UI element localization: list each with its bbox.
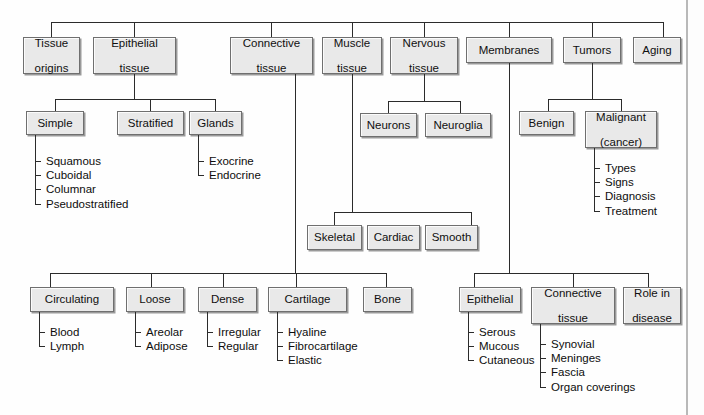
node-muscle-tissue-label: Muscle tissue [330, 37, 374, 74]
root-drop-aging [663, 22, 664, 37]
node-skeletal-label: Skeletal [310, 231, 359, 243]
leaf-item: Meninges [540, 351, 635, 365]
node-epithelial-tissue[interactable]: Epithelial tissue [93, 37, 176, 74]
node-connective-tissue-label: Connective tissue [239, 37, 305, 74]
node-cartilage-label: Cartilage [280, 293, 334, 305]
muscle-bus [334, 212, 471, 213]
node-bone-label: Bone [370, 293, 405, 305]
leaf-item: Squamous [35, 154, 128, 168]
tumors-drop-malignant [621, 99, 622, 111]
node-smooth[interactable]: Smooth [425, 225, 478, 250]
node-tumors[interactable]: Tumors [563, 37, 621, 63]
membranes-bus [474, 273, 648, 274]
connective-drop-dense [223, 273, 224, 287]
leaf-list-membrane-epithelial: Serous Mucous Cutaneous [468, 325, 535, 368]
leaf-connector-cartilage [277, 312, 278, 325]
node-dense-label: Dense [207, 293, 248, 305]
membranes-trunk [509, 63, 510, 273]
node-stratified[interactable]: Stratified [117, 111, 184, 135]
leaf-item: Areolar [135, 325, 188, 339]
node-neurons-label: Neurons [363, 119, 414, 131]
node-tissue-origins[interactable]: Tissue origins [23, 37, 80, 74]
node-connective-tissue[interactable]: Connective tissue [230, 37, 313, 74]
node-stratified-label: Stratified [124, 117, 177, 129]
leaf-item: Serous [468, 325, 535, 339]
leaf-connector-loose [135, 312, 136, 325]
node-malignant-cancer-label: Malignant (cancer) [592, 111, 650, 148]
tumors-bus [548, 99, 621, 100]
leaf-item: Types [594, 161, 657, 175]
node-neurons[interactable]: Neurons [360, 113, 417, 137]
connective-drop-bone [386, 273, 387, 287]
leaf-connector-dense [207, 312, 208, 325]
root-drop-nervous [424, 22, 425, 37]
leaf-item: Diagnosis [594, 189, 657, 203]
node-benign-label: Benign [525, 117, 569, 129]
node-circulating-label: Circulating [41, 293, 103, 305]
root-drop-epithelial [134, 22, 135, 37]
leaf-item: Signs [594, 175, 657, 189]
leaf-connector-membrane-connective [540, 324, 541, 337]
root-drop-connective [271, 22, 272, 37]
node-membrane-epithelial-label: Epithelial [463, 293, 518, 305]
epithelial-trunk [134, 74, 135, 99]
node-tumors-label: Tumors [569, 44, 616, 56]
node-tissue-origins-label: Tissue origins [31, 37, 73, 74]
node-membranes[interactable]: Membranes [466, 37, 552, 63]
node-muscle-tissue[interactable]: Muscle tissue [322, 37, 382, 74]
node-cartilage[interactable]: Cartilage [268, 287, 347, 312]
epithelial-drop-simple [55, 99, 56, 111]
leaf-item: Pseudostratified [35, 197, 128, 211]
node-loose-label: Loose [135, 293, 174, 305]
node-cardiac-label: Cardiac [370, 231, 418, 243]
node-cardiac[interactable]: Cardiac [367, 225, 420, 250]
node-membrane-epithelial[interactable]: Epithelial [459, 287, 521, 312]
membranes-drop-role [648, 273, 649, 287]
epithelial-bus [55, 99, 215, 100]
leaf-item: Adipose [135, 339, 188, 353]
connective-drop-loose [151, 273, 152, 287]
leaf-item: Irregular [207, 325, 261, 339]
leaf-item: Treatment [594, 204, 657, 218]
node-neuroglia[interactable]: Neuroglia [425, 113, 491, 137]
nervous-drop-neuroglia [460, 101, 461, 113]
muscle-drop-smooth [471, 212, 472, 225]
node-nervous-tissue[interactable]: Nervous tissue [390, 37, 458, 74]
node-circulating[interactable]: Circulating [30, 287, 114, 312]
node-loose[interactable]: Loose [126, 287, 184, 312]
leaf-item: Elastic [277, 353, 358, 367]
node-aging[interactable]: Aging [633, 37, 681, 63]
node-membrane-connective-tissue[interactable]: Connective tissue [531, 287, 615, 324]
leaf-item: Regular [207, 339, 261, 353]
node-glands[interactable]: Glands [189, 111, 242, 135]
nervous-bus [388, 101, 460, 102]
node-aging-label: Aging [638, 44, 675, 56]
node-simple[interactable]: Simple [26, 111, 84, 135]
node-benign[interactable]: Benign [519, 111, 574, 135]
leaf-item: Exocrine [198, 154, 261, 168]
root-drop-tumors [592, 22, 593, 37]
muscle-drop-skeletal [334, 212, 335, 225]
leaf-item: Hyaline [277, 325, 358, 339]
epithelial-drop-stratified [150, 99, 151, 111]
node-malignant-cancer[interactable]: Malignant (cancer) [585, 111, 657, 148]
node-role-in-disease[interactable]: Role in disease [623, 287, 681, 324]
node-bone[interactable]: Bone [363, 287, 412, 312]
tissue-concept-map: Tissue origins Epithelial tissue Connect… [0, 0, 704, 415]
leaf-list-loose: Areolar Adipose [135, 325, 188, 353]
leaf-list-membrane-connective: Synovial Meninges Fascia Organ coverings [540, 337, 635, 394]
leaf-list-cartilage: Hyaline Fibrocartilage Elastic [277, 325, 358, 368]
page-edge-band [686, 0, 704, 415]
leaf-item: Columnar [35, 182, 128, 196]
connective-drop-cartilage [296, 273, 297, 287]
node-dense[interactable]: Dense [198, 287, 257, 312]
membranes-drop-epithelial [474, 273, 475, 287]
leaf-item: Synovial [540, 337, 635, 351]
node-smooth-label: Smooth [428, 231, 476, 243]
node-skeletal[interactable]: Skeletal [307, 225, 362, 250]
node-epithelial-tissue-label: Epithelial tissue [107, 37, 162, 74]
leaf-item: Organ coverings [540, 380, 635, 394]
leaf-connector-malignant [594, 148, 595, 161]
leaf-connector-circulating [39, 312, 40, 325]
connective-trunk [295, 74, 296, 273]
